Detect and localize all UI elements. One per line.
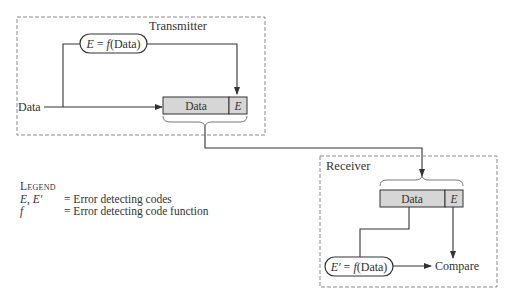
receiver-function-text: E′ = f(Data) (330, 260, 388, 274)
transmitter-function-text: E = f(Data) (85, 37, 140, 51)
compare-label: Compare (435, 259, 479, 273)
rx-brace (380, 176, 463, 186)
tx-branch-to-function (63, 44, 80, 107)
legend-description: = Error detecting code function (64, 205, 208, 217)
tx-brace (163, 116, 247, 126)
legend-description: = Error detecting codes (64, 193, 172, 205)
legend: Legend E, E′ = Error detecting codes f =… (20, 180, 208, 217)
error-detection-diagram: Transmitter E = f(Data) Data Data E Rece… (0, 0, 516, 297)
rx-frame-data-label: Data (401, 193, 423, 205)
receiver-title: Receiver (326, 159, 371, 173)
legend-item: E, E′ = Error detecting codes (20, 193, 208, 205)
tx-function-to-code (147, 44, 237, 94)
tx-frame-code-label: E (233, 100, 241, 112)
legend-symbol: E, E′ (20, 193, 64, 205)
legend-symbol: f (20, 205, 64, 217)
transmitter-title: Transmitter (149, 19, 208, 33)
legend-title: Legend (20, 180, 208, 192)
legend-item: f = Error detecting code function (20, 205, 208, 217)
transmission-wire (205, 126, 422, 176)
transmitter-input-label: Data (18, 100, 41, 114)
rx-frame-code-label: E (449, 193, 457, 205)
tx-frame-data-label: Data (185, 100, 207, 112)
rx-data-to-function (360, 207, 409, 257)
